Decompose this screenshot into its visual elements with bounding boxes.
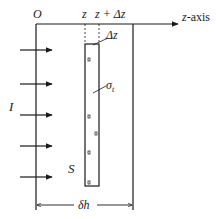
particle-icon bbox=[95, 132, 97, 135]
sigma-subscript: t bbox=[112, 85, 115, 94]
particle-icon bbox=[88, 151, 90, 154]
width-label: δh bbox=[78, 198, 90, 212]
surface-label: S bbox=[68, 161, 75, 176]
z-plus-dz-label: z + Δz bbox=[94, 7, 126, 21]
sigma-label: σt bbox=[106, 78, 115, 94]
delta-z-label: Δz bbox=[105, 28, 118, 42]
diagram-canvas: O z z + Δz z-axis Δz σt I S δh bbox=[0, 0, 216, 219]
particle-icon bbox=[88, 58, 90, 61]
particle-icon bbox=[88, 115, 90, 118]
z-label: z bbox=[81, 7, 87, 21]
slab-rectangle bbox=[85, 44, 99, 186]
incident-label: I bbox=[8, 99, 14, 114]
particle-icon bbox=[88, 181, 90, 184]
particles bbox=[88, 58, 97, 184]
axis-label-suffix: -axis bbox=[187, 10, 211, 24]
origin-label: O bbox=[33, 7, 42, 21]
axis-label: z-axis bbox=[181, 10, 210, 24]
